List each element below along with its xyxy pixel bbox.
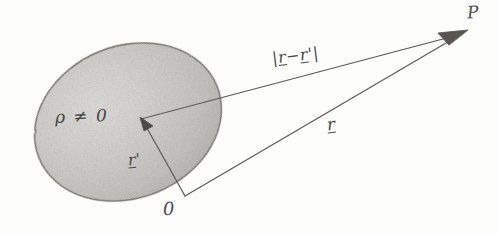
- r-vector-group: [185, 36, 458, 196]
- r-vector-shaft: [185, 36, 458, 196]
- charge-density-label: ρ ≠ 0: [55, 107, 109, 126]
- charge-region-shading: [11, 16, 246, 229]
- point-p-arrowhead: [438, 30, 468, 45]
- point-p-arrowhead-group: [438, 30, 468, 45]
- r-prime-vector-label: r': [127, 152, 140, 169]
- r-vector-label: r: [326, 116, 336, 134]
- point-p-label: P: [466, 4, 479, 22]
- origin-label: 0: [163, 200, 175, 219]
- charge-region-group: [11, 16, 246, 229]
- vector-diagram-figure: ρ ≠ 0 |r−r'| r r' 0 P: [0, 0, 498, 235]
